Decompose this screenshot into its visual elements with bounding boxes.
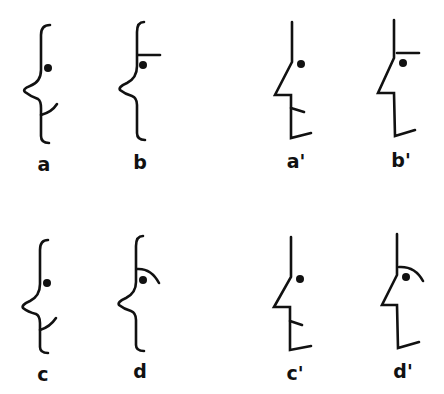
- label-b: b: [133, 153, 147, 172]
- face-d: [119, 236, 159, 351]
- label-c: c: [37, 365, 48, 384]
- label-a: a: [38, 155, 51, 174]
- eye-c: [43, 279, 51, 287]
- profile-angular-c-prime: [274, 237, 311, 350]
- face-d-prime: [382, 234, 423, 348]
- profile-angular-b-prime: [378, 20, 415, 136]
- profile-angular-d-prime: [382, 234, 419, 348]
- face-profiles-figure: a b a' b' c d c' d': [0, 0, 444, 394]
- face-a-prime: [275, 22, 311, 138]
- label-a-prime: a': [287, 152, 306, 171]
- label-b-prime: b': [391, 151, 410, 170]
- face-c-prime: [274, 237, 311, 350]
- profile-curve-b: [120, 22, 145, 140]
- eye-a-prime: [297, 60, 305, 68]
- mouth-tick-c-prime: [290, 321, 302, 325]
- face-b: [120, 22, 160, 140]
- label-c-prime: c': [286, 364, 303, 383]
- face-a: [24, 25, 57, 143]
- face-b-prime: [378, 20, 419, 136]
- profile-curve-a: [24, 25, 50, 143]
- eye-c-prime: [296, 275, 304, 283]
- eye-d-prime: [402, 273, 410, 281]
- eye-a: [44, 64, 52, 72]
- eye-b: [139, 61, 147, 69]
- label-d-prime: d': [393, 362, 412, 381]
- figure-drawing: [0, 0, 444, 394]
- mouth-curve-a: [41, 104, 57, 115]
- mouth-curve-c: [40, 318, 56, 330]
- eye-d: [139, 276, 147, 284]
- mouth-tick-a-prime: [291, 108, 304, 112]
- profile-curve-c: [23, 240, 48, 353]
- label-d: d: [133, 362, 147, 381]
- profile-curve-d: [119, 236, 144, 351]
- profile-angular-a-prime: [275, 22, 311, 138]
- eye-b-prime: [399, 59, 407, 67]
- face-c: [23, 240, 56, 353]
